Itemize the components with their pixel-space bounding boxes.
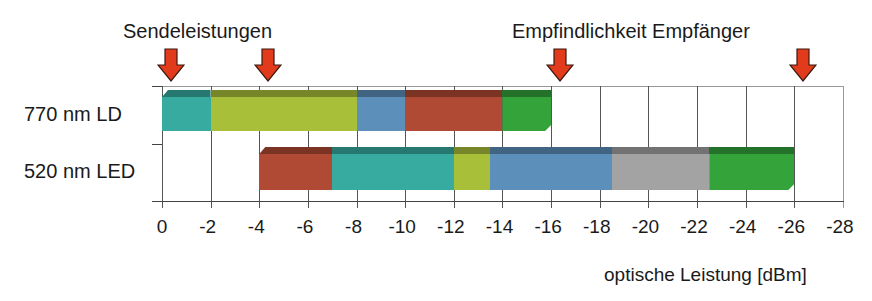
annotation-sendeleistungen: Sendeleistungen — [123, 20, 272, 43]
y-axis-tick — [152, 144, 162, 145]
x-tick-label: -26 — [778, 216, 805, 238]
x-tick-label: -8 — [345, 216, 362, 238]
x-tick-label: -18 — [583, 216, 610, 238]
x-tick-label: -6 — [296, 216, 313, 238]
bar-segment — [490, 147, 612, 190]
down-arrow-icon — [254, 48, 280, 82]
x-tick-label: -22 — [680, 216, 707, 238]
row-label-770nm-ld: 770 nm LD — [24, 103, 122, 126]
x-tick-label: -16 — [534, 216, 561, 238]
bar-segment — [502, 90, 551, 131]
down-arrow-icon — [546, 48, 572, 82]
down-arrow-icon — [157, 48, 183, 82]
bar-segment — [332, 147, 454, 190]
x-tick-label: -20 — [632, 216, 659, 238]
bar-segment — [211, 90, 357, 131]
x-tick-label: -10 — [388, 216, 415, 238]
x-tick-label: 0 — [157, 216, 168, 238]
bar-segment — [162, 90, 211, 131]
y-axis-tick — [152, 86, 162, 87]
bar-segment — [405, 90, 502, 131]
bar-segment — [454, 147, 490, 190]
row-label-520nm-led: 520 nm LED — [24, 160, 135, 183]
bar-segment — [612, 147, 709, 190]
x-axis-line — [152, 201, 844, 202]
bar-segment — [259, 147, 332, 190]
x-axis-label: optische Leistung [dBm] — [604, 264, 807, 286]
gridline — [794, 86, 795, 208]
x-tick-label: -14 — [486, 216, 513, 238]
down-arrow-icon — [789, 48, 815, 82]
bar-segment — [709, 147, 794, 190]
x-tick-label: -12 — [437, 216, 464, 238]
x-tick-label: -2 — [199, 216, 216, 238]
x-tick-label: -4 — [248, 216, 265, 238]
bar-segment — [357, 90, 406, 131]
gridline — [843, 86, 844, 208]
x-tick-label: -24 — [729, 216, 756, 238]
x-tick-label: -28 — [826, 216, 853, 238]
annotation-empfindlichkeit: Empfindlichkeit Empfänger — [512, 20, 750, 43]
